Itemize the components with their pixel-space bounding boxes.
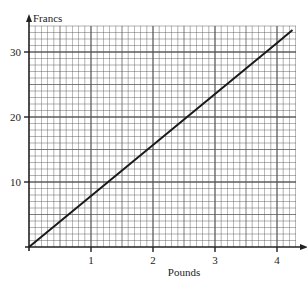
conversion-graph: 1234102030FrancsPounds [0,0,307,282]
x-axis-arrow-icon [300,244,307,250]
x-axis-label: Pounds [168,266,200,278]
y-tick-label: 10 [10,176,22,188]
x-tick-label: 3 [212,254,218,266]
y-tick-label: 20 [10,111,22,123]
x-tick-label: 2 [150,254,156,266]
x-tick-label: 1 [88,254,94,266]
y-axis-label: Francs [33,12,62,24]
x-tick-label: 4 [274,254,280,266]
y-axis-arrow-icon [26,14,32,22]
y-tick-label: 30 [10,46,22,58]
